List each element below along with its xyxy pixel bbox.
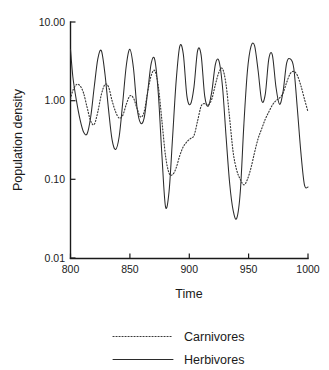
x-tick-label-800: 800 — [62, 263, 80, 275]
legend-label-carnivores: Carnivores — [184, 330, 244, 344]
x-tick-label-850: 850 — [121, 263, 139, 275]
series-line-herbivores — [71, 43, 309, 219]
y-tick-label-10: 10.00 — [39, 16, 65, 28]
y-axis-title: Population density — [11, 88, 25, 191]
legend-label-herbivores: Herbivores — [184, 353, 244, 367]
x-axis-ticks — [71, 254, 309, 259]
x-tick-label-900: 900 — [181, 263, 199, 275]
y-tick-label-0-10: 0.10 — [45, 173, 66, 185]
x-tick-label-950: 950 — [240, 263, 258, 275]
x-axis-title: Time — [175, 287, 202, 301]
y-tick-label-0-01: 0.01 — [45, 252, 66, 264]
x-tick-label-1000: 1000 — [296, 263, 320, 275]
chart-legend: Carnivores Herbivores — [113, 330, 244, 367]
y-tick-label-1: 1.00 — [45, 94, 66, 106]
chart-figure: 10.00 1.00 0.10 0.01 800 850 900 950 100… — [0, 0, 329, 370]
population-density-chart: 10.00 1.00 0.10 0.01 800 850 900 950 100… — [0, 0, 329, 370]
